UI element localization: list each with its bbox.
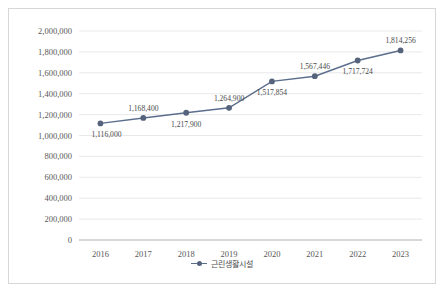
y-axis-tick-label: 1,200,000 [38,110,72,120]
chart-plot-area: 0200,000400,000600,000800,0001,000,0001,… [9,9,435,283]
data-point-marker[interactable] [312,73,318,79]
y-axis-tick-label: 1,600,000 [38,68,72,78]
y-axis-tick-label: 800,000 [44,151,72,161]
data-point-label: 1,814,256 [385,36,416,45]
data-point-label: 1,717,724 [343,67,374,76]
legend-label: 근린생활시설 [211,258,253,269]
y-axis-tick-label: 600,000 [44,172,72,182]
chart-frame: 0200,000400,000600,000800,0001,000,0001,… [8,8,436,284]
data-point-marker[interactable] [398,48,404,54]
y-axis-tick-label: 1,000,000 [38,131,72,141]
data-point-marker[interactable] [140,115,146,121]
data-point-marker[interactable] [98,120,104,126]
data-point-marker[interactable] [226,105,232,111]
data-point-marker[interactable] [269,78,275,84]
y-axis-tick-label: 1,400,000 [38,89,72,99]
data-point-label: 1,567,446 [300,62,331,71]
data-point-label: 1,168,400 [128,104,159,113]
data-point-marker[interactable] [355,58,361,64]
legend-marker-icon [191,260,207,268]
y-axis-tick-label: 0 [68,235,72,245]
data-point-label: 1,116,000 [91,130,121,139]
line-chart-svg: 0200,000400,000600,000800,0001,000,0001,… [9,9,437,285]
y-axis-tick-label: 200,000 [44,214,72,224]
y-axis-tick-label: 400,000 [44,193,72,203]
chart-legend: 근린생활시설 [9,258,435,269]
data-point-label: 1,264,900 [214,94,245,103]
y-axis-tick-label: 1,800,000 [38,47,72,57]
y-axis-tick-label: 2,000,000 [38,26,72,36]
data-point-label: 1,517,854 [257,88,288,97]
data-point-marker[interactable] [183,110,189,116]
data-point-label: 1,217,900 [171,120,202,129]
